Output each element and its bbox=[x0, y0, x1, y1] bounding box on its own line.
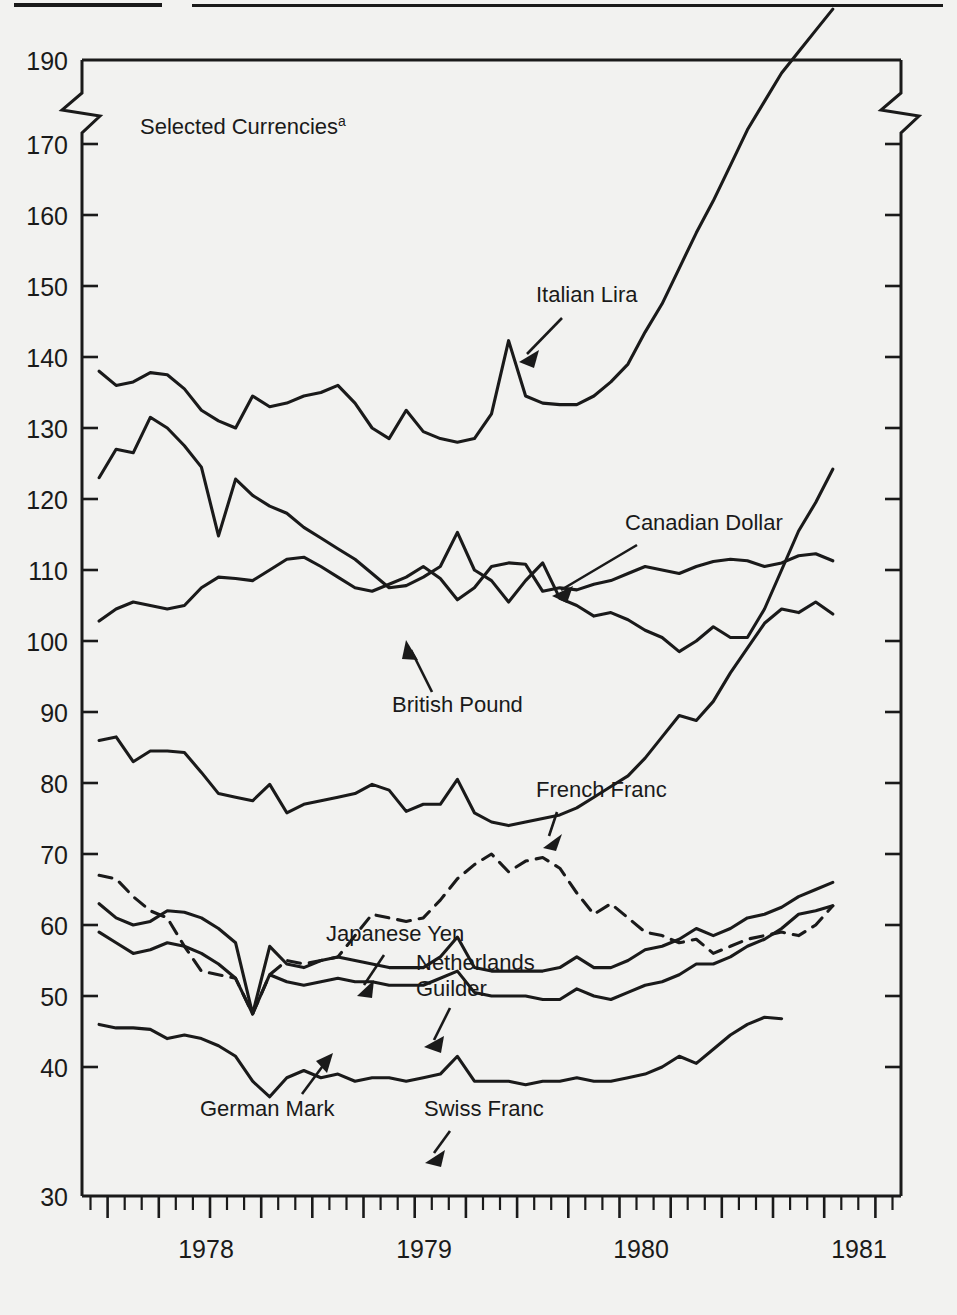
y-tick-label: 150 bbox=[26, 273, 68, 301]
y-tick-label: 30 bbox=[40, 1183, 68, 1211]
y-axis-labels: 190 170 160 150 140 130 120 110 100 90 8… bbox=[26, 47, 68, 1211]
annotation-british-pound: British Pound bbox=[392, 640, 523, 717]
y-tick-label: 50 bbox=[40, 983, 68, 1011]
annotation-label-line1: Netherlands bbox=[416, 950, 535, 975]
y-tick-marks bbox=[82, 144, 901, 1067]
y-tick-label: 130 bbox=[26, 415, 68, 443]
annotation-label: Italian Lira bbox=[536, 282, 638, 307]
annotation-canadian-dollar: Canadian Dollar bbox=[552, 510, 783, 603]
annotation-label: Canadian Dollar bbox=[625, 510, 783, 535]
y-tick-label: 160 bbox=[26, 202, 68, 230]
annotation-label: British Pound bbox=[392, 692, 523, 717]
x-tick-label: 1978 bbox=[178, 1235, 234, 1263]
x-tick-marks bbox=[91, 1196, 893, 1218]
y-tick-label: 170 bbox=[26, 131, 68, 159]
annotation-label: French Franc bbox=[536, 777, 667, 802]
annotation-swiss-franc: Swiss Franc bbox=[424, 1096, 544, 1167]
annotation-german-mark: German Mark bbox=[200, 1053, 335, 1121]
annotation-netherlands-guilder: Netherlands Guilder bbox=[416, 950, 535, 1053]
y-tick-label: 40 bbox=[40, 1054, 68, 1082]
annotation-label: Japanese Yen bbox=[326, 921, 464, 946]
annotation-label-line2: Guilder bbox=[416, 976, 487, 1001]
x-tick-label: 1979 bbox=[396, 1235, 452, 1263]
y-tick-label: 100 bbox=[26, 628, 68, 656]
right-axis bbox=[881, 60, 919, 1196]
y-tick-label: 190 bbox=[26, 47, 68, 75]
arrowhead-icon bbox=[402, 640, 418, 660]
y-tick-label: 90 bbox=[40, 699, 68, 727]
arrowhead-icon bbox=[543, 834, 562, 851]
series-italian-lira bbox=[99, 9, 833, 442]
annotation-french-franc: French Franc bbox=[536, 777, 667, 851]
figure-root: 190 170 160 150 140 130 120 110 100 90 8… bbox=[0, 0, 957, 1315]
chart-title: Selected Currenciesa bbox=[140, 113, 346, 139]
annotation-label: Swiss Franc bbox=[424, 1096, 544, 1121]
chart-title-superscript: a bbox=[338, 113, 346, 129]
x-tick-label: 1981 bbox=[831, 1235, 887, 1263]
annotation-italian-lira: Italian Lira bbox=[519, 282, 638, 368]
currency-index-line-chart: 190 170 160 150 140 130 120 110 100 90 8… bbox=[0, 0, 957, 1315]
y-tick-label: 140 bbox=[26, 344, 68, 372]
chart-title-text: Selected Currencies bbox=[140, 114, 338, 139]
y-tick-label: 60 bbox=[40, 912, 68, 940]
y-tick-label: 70 bbox=[40, 841, 68, 869]
y-tick-label: 110 bbox=[28, 557, 68, 585]
y-tick-label: 80 bbox=[40, 770, 68, 798]
series-group bbox=[99, 9, 833, 1097]
axis-break-line-gap bbox=[790, 96, 808, 110]
x-axis-labels: 1978 1979 1980 1981 bbox=[178, 1235, 887, 1263]
x-tick-label: 1980 bbox=[613, 1235, 669, 1263]
series-canadian-dollar bbox=[99, 554, 833, 621]
annotation-label: German Mark bbox=[200, 1096, 335, 1121]
y-tick-label: 120 bbox=[26, 486, 68, 514]
